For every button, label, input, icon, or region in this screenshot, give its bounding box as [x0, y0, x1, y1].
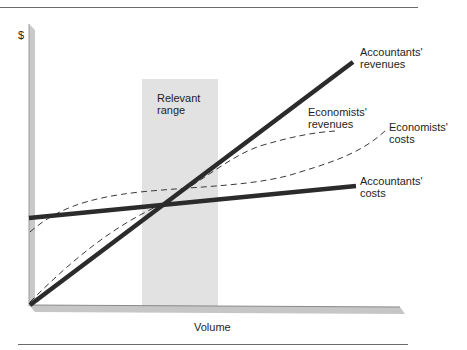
accountants-costs-label: Accountants' costs [360, 175, 423, 199]
y-axis-label: $ [18, 29, 24, 41]
accountants-revenues-label: Accountants' revenues [360, 46, 423, 70]
y-axis [29, 24, 35, 306]
x-axis-label: Volume [194, 321, 231, 333]
relevant-range-label: Relevant range [157, 92, 200, 116]
economists-revenues-label: Economists' revenues [308, 106, 367, 130]
economists-costs-label: Economists' costs [389, 121, 448, 145]
